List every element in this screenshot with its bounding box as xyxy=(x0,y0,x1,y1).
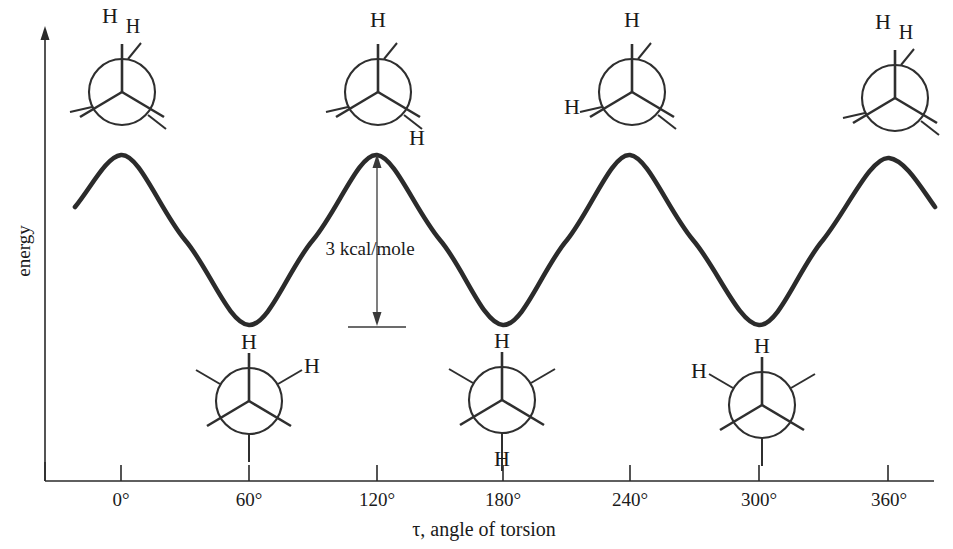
x-axis-label: τ, angle of torsion xyxy=(412,518,556,541)
axes-group xyxy=(41,26,935,481)
h-label-eclipsed-360-back: H xyxy=(899,21,913,44)
newman-projection-staggered-300 xyxy=(709,357,815,466)
energy-curve xyxy=(75,155,935,325)
x-tick-label-120: 120° xyxy=(359,489,395,511)
newman-projection-eclipsed-360 xyxy=(843,49,939,135)
front-bond-lower-right xyxy=(502,400,544,425)
h-label-staggered-60-front: H xyxy=(241,329,257,355)
h-label-eclipsed-120-front: H xyxy=(370,7,386,33)
h-label-staggered-180-back: H xyxy=(494,446,510,472)
y-axis-label: energy xyxy=(13,201,35,301)
front-bond-lower-left xyxy=(207,401,249,426)
newman-projection-eclipsed-0 xyxy=(70,43,166,129)
h-label-eclipsed-0-back: H xyxy=(126,15,140,38)
torsional-energy-figure: energy 0° 60° 120° 180° 240° 300° 360° τ… xyxy=(0,0,953,549)
x-tick-label-240: 240° xyxy=(612,489,648,511)
front-bond-lower-right xyxy=(762,405,804,430)
back-bond-up xyxy=(128,43,141,59)
h-label-eclipsed-240-front: H xyxy=(624,7,640,33)
x-tick-label-300: 300° xyxy=(741,489,777,511)
h-label-eclipsed-240-back: H xyxy=(564,94,580,120)
back-bond-up xyxy=(384,43,397,59)
x-tick-label-360: 360° xyxy=(871,489,907,511)
h-label-eclipsed-0-front: H xyxy=(102,3,118,29)
back-bond-upper-right xyxy=(278,370,302,384)
back-bond-upper-left xyxy=(709,374,733,388)
back-bond-up xyxy=(638,43,651,59)
back-bond-upper-left xyxy=(196,370,220,384)
front-bond-lower-left xyxy=(460,400,502,425)
newman-projection-eclipsed-120 xyxy=(326,43,422,129)
front-bond-lower-right xyxy=(632,92,674,117)
newman-projection-staggered-60 xyxy=(196,353,302,462)
front-bond-lower-right xyxy=(249,401,291,426)
back-bond-upper-right xyxy=(791,374,815,388)
front-bond-lower-left xyxy=(853,98,895,123)
y-axis-arrowhead xyxy=(41,26,50,40)
front-bond-lower-left xyxy=(80,92,122,117)
x-tick-label-60: 60° xyxy=(236,489,263,511)
barrier-label: 3 kcal/mole xyxy=(325,238,414,260)
back-bond-upper-right xyxy=(531,369,555,383)
h-label-eclipsed-360-front: H xyxy=(875,9,891,35)
h-label-staggered-300-back: H xyxy=(691,358,707,384)
x-tick-label-0: 0° xyxy=(112,489,129,511)
back-bond-upper-left xyxy=(449,369,473,383)
h-label-staggered-60-back: H xyxy=(304,353,320,379)
front-bond-lower-left xyxy=(720,405,762,430)
front-bond-lower-right xyxy=(378,92,420,117)
front-bond-lower-left xyxy=(336,92,378,117)
h-label-eclipsed-120-back: H xyxy=(409,125,425,151)
front-bond-lower-right xyxy=(122,92,164,117)
h-label-staggered-300-front: H xyxy=(754,333,770,359)
h-label-staggered-180-front: H xyxy=(494,328,510,354)
front-bond-lower-right xyxy=(895,98,937,123)
barrier-arrowhead-bottom xyxy=(373,312,382,326)
newman-projection-eclipsed-240 xyxy=(580,43,676,129)
back-bond-up xyxy=(901,49,914,65)
plot-canvas xyxy=(0,0,953,549)
front-bond-lower-left xyxy=(590,92,632,117)
x-tick-label-180: 180° xyxy=(485,489,521,511)
